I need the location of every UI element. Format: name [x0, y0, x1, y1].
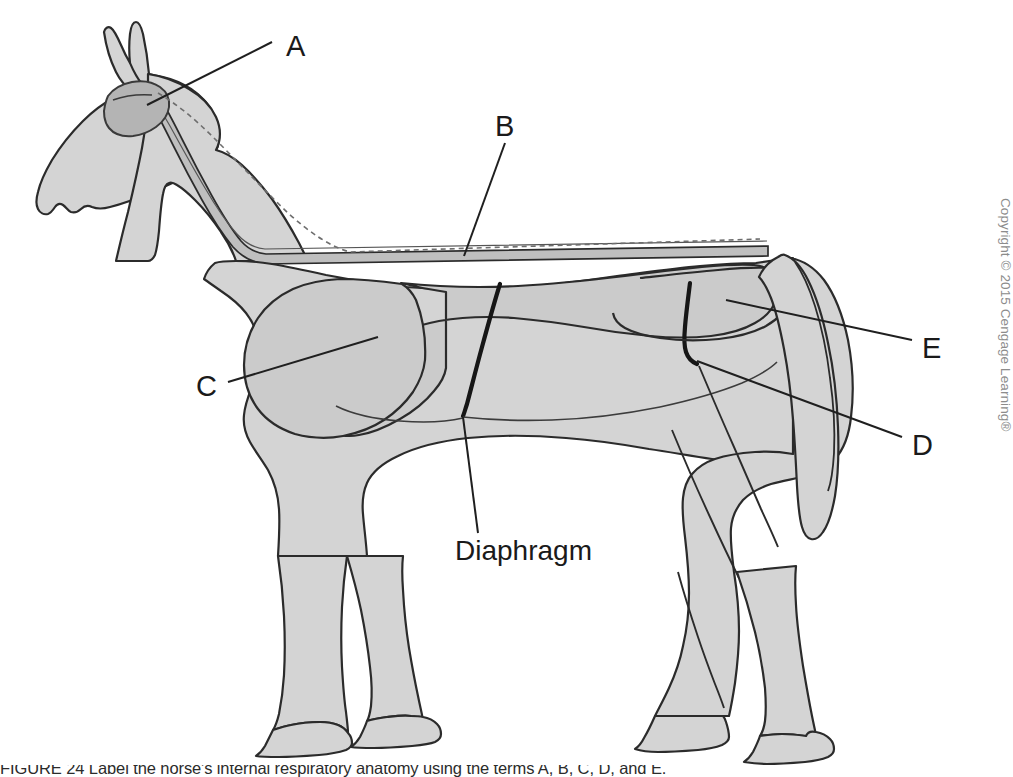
copyright-notice: Copyright © 2015 Cengage Learning®: [998, 198, 1013, 478]
label-c: C: [196, 370, 217, 402]
figure-caption-clip: FIGURE 24 Label the horse's internal res…: [0, 765, 995, 777]
label-a: A: [286, 30, 306, 62]
figure-caption: FIGURE 24 Label the horse's internal res…: [0, 765, 995, 777]
label-e: E: [922, 332, 941, 364]
label-b: B: [495, 110, 514, 142]
label-d: D: [912, 429, 933, 461]
label-diaphragm: Diaphragm: [455, 535, 592, 566]
front-leg-near: [273, 556, 348, 733]
